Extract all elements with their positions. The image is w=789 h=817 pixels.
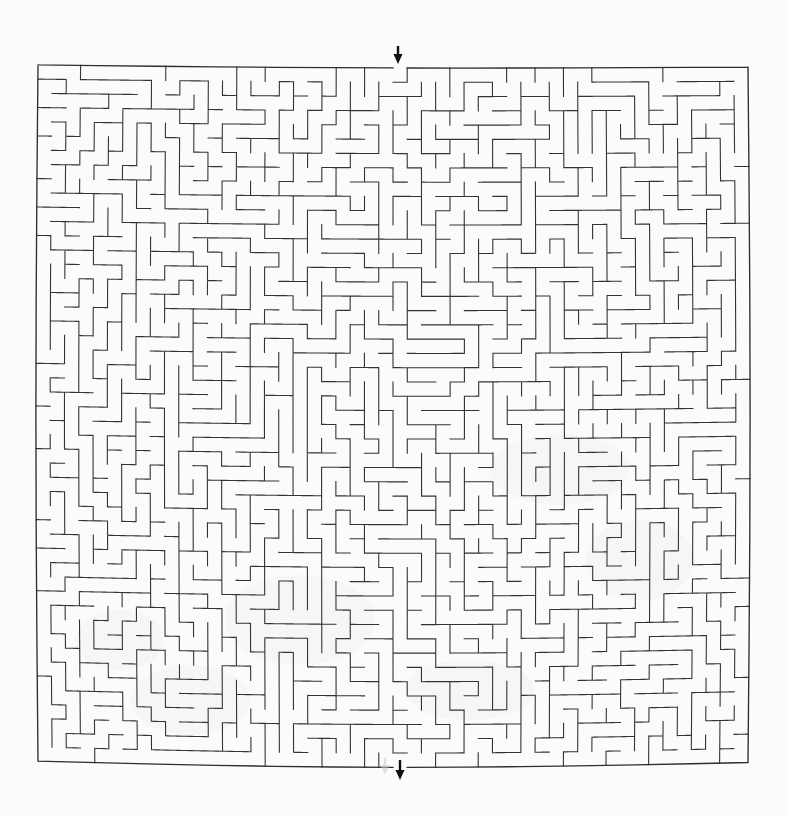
ghost-arrow-glyph	[381, 758, 390, 775]
paper-texture	[75, 435, 695, 735]
paper-blotch-0	[130, 665, 250, 735]
paper-blotch-1	[225, 575, 375, 665]
maze-canvas	[0, 0, 789, 817]
paper-blotch-5	[75, 610, 165, 670]
entrance-arrow-icon	[394, 46, 403, 64]
exit-arrow-icon	[396, 760, 405, 780]
paper-blotch-2	[405, 660, 535, 720]
exit-arrow-glyph	[396, 760, 405, 780]
ghost-arrow-icon	[381, 758, 390, 775]
maze-page: Maze Puzzle	[0, 0, 789, 817]
entrance-arrow-glyph	[394, 46, 403, 64]
paper-blotch-4	[490, 435, 630, 505]
